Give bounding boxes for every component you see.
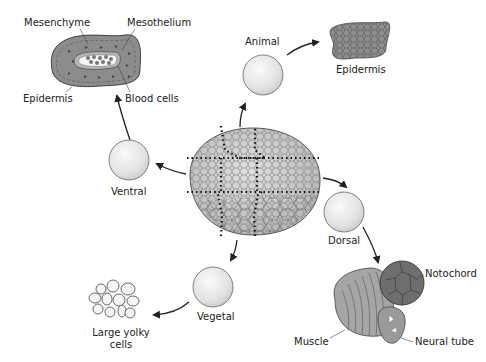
ventral-tissue: [51, 29, 140, 92]
label-animal-epidermis: Epidermis: [336, 64, 386, 76]
sphere-ventral: [109, 140, 149, 180]
diagram-canvas: [0, 0, 486, 362]
arrow-dorsal-to-tissues: [363, 227, 378, 262]
arrow-to-vegetal: [231, 240, 237, 260]
blastula: [187, 126, 322, 236]
label-ventral-epidermis: Epidermis: [23, 93, 73, 105]
arrow-to-dorsal: [323, 178, 346, 187]
label-muscle: Muscle: [294, 336, 329, 348]
arrow-to-ventral: [157, 164, 186, 174]
sphere-dorsal: [324, 192, 364, 232]
sphere-animal: [243, 55, 283, 95]
label-dorsal: Dorsal: [328, 235, 360, 247]
label-vegetal: Vegetal: [197, 311, 235, 323]
label-mesenchyme: Mesenchyme: [24, 17, 90, 29]
arrow-animal-to-epidermis: [287, 42, 318, 55]
label-blood-cells: Blood cells: [125, 93, 179, 105]
yolky-cells: [89, 280, 139, 318]
label-notochord: Notochord: [425, 268, 477, 280]
arrow-to-animal: [240, 104, 245, 127]
label-mesothelium: Mesothelium: [127, 17, 191, 29]
dorsal-tissue: [330, 261, 424, 343]
label-neural-tube: Neural tube: [415, 336, 474, 348]
epidermis-tissue: [330, 22, 390, 59]
label-yolky-line2: cells: [88, 339, 154, 351]
label-animal: Animal: [245, 36, 280, 48]
label-ventral: Ventral: [111, 186, 147, 198]
label-yolky-line1: Large yolky: [88, 327, 154, 339]
arrow-vegetal-to-yolk: [154, 302, 189, 315]
sphere-vegetal: [193, 267, 233, 307]
